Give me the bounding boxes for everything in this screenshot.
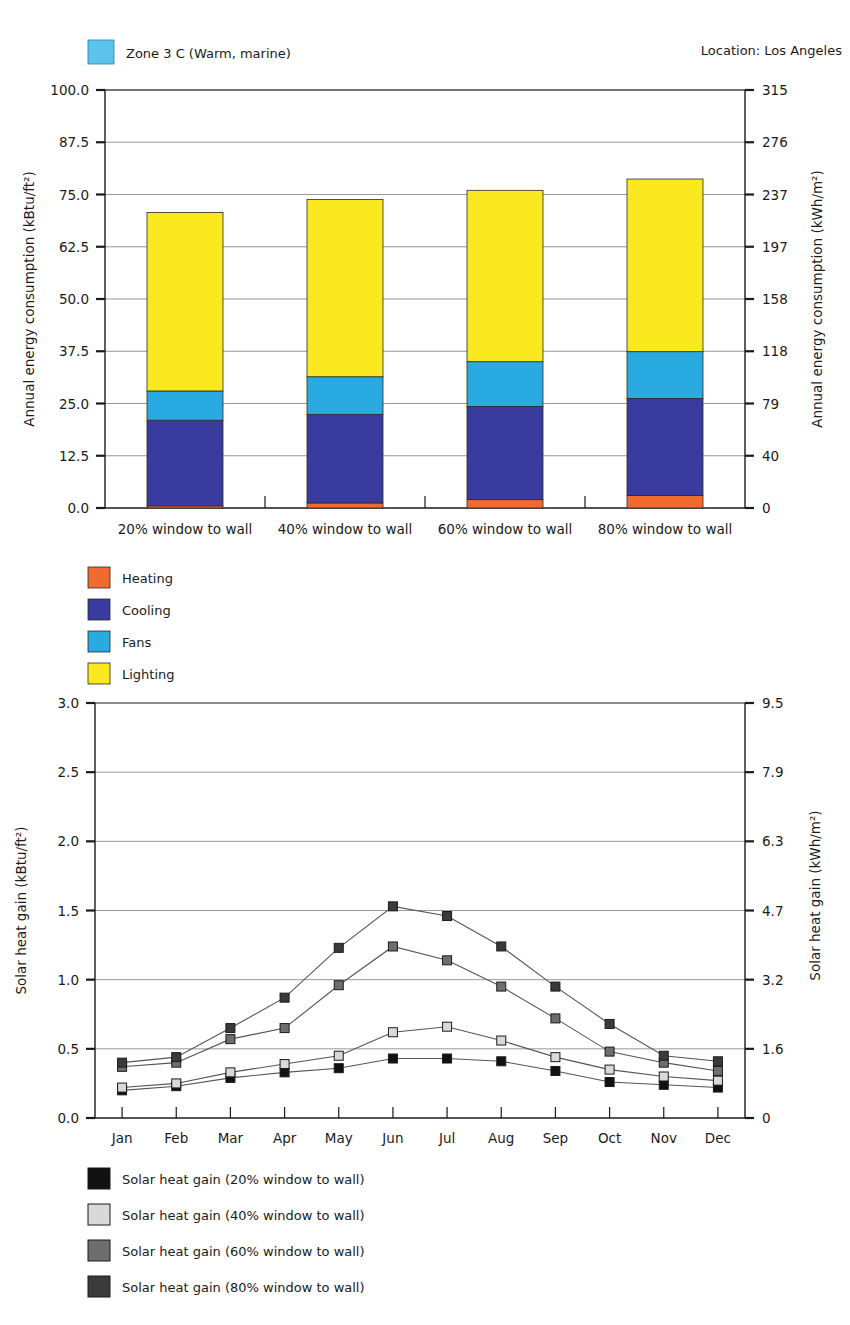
y-tick-label-left: 37.5 [59, 343, 89, 359]
series-marker [388, 942, 397, 951]
y-tick-label-left: 100.0 [50, 82, 89, 98]
series-marker [605, 1047, 614, 1056]
legend-label-series-3: Solar heat gain (60% window to wall) [122, 1244, 365, 1259]
series-marker [280, 993, 289, 1002]
y-tick-label-right: 7.9 [762, 764, 783, 780]
series-marker [118, 1058, 127, 1067]
x-month-label: Mar [218, 1130, 244, 1146]
x-month-label: May [325, 1130, 353, 1146]
bar-segment-cooling [467, 406, 543, 499]
legend-swatch-series-1 [88, 1168, 110, 1189]
y-axis-title-right: Solar heat gain (kWh/m²) [807, 810, 823, 980]
bar-segment-heating [467, 500, 543, 508]
bar-segment-cooling [307, 414, 383, 503]
legend-label-series-1: Solar heat gain (20% window to wall) [122, 1172, 365, 1187]
y-tick-label-left: 0.0 [58, 1110, 79, 1126]
series-marker [172, 1079, 181, 1088]
series-marker [659, 1072, 668, 1081]
legend-swatch-series-4 [88, 1276, 110, 1297]
y-tick-label-right: 0 [762, 500, 771, 516]
y-tick-label-left: 25.0 [59, 396, 89, 412]
y-tick-label-right: 3.2 [762, 972, 783, 988]
legend-label-series-2: Solar heat gain (40% window to wall) [122, 1208, 365, 1223]
series-marker [551, 1014, 560, 1023]
series-marker [551, 1066, 560, 1075]
series-line [122, 946, 718, 1071]
series-marker [172, 1053, 181, 1062]
x-month-label: Dec [705, 1130, 731, 1146]
series-marker [280, 1068, 289, 1077]
y-tick-label-left: 87.5 [59, 134, 89, 150]
y-tick-label-right: 197 [762, 239, 788, 255]
series-marker [497, 982, 506, 991]
series-marker [388, 1054, 397, 1063]
series-marker [497, 1057, 506, 1066]
y-tick-label-right: 158 [762, 291, 788, 307]
bar-segment-fans [467, 362, 543, 407]
bar-segment-fans [307, 377, 383, 415]
energy-legend: HeatingCoolingFansLighting [88, 567, 175, 684]
y-tick-label-left: 12.5 [59, 448, 89, 464]
legend-label-lighting: Lighting [122, 667, 175, 682]
x-category-label: 60% window to wall [438, 521, 572, 537]
x-month-label: Feb [164, 1130, 188, 1146]
series-marker [226, 1035, 235, 1044]
y-tick-label-left: 2.5 [58, 764, 79, 780]
energy-chart: 0.012.525.037.550.062.575.087.5100.00407… [21, 82, 825, 537]
chart-header: Zone 3 C (Warm, marine)Location: Los Ang… [88, 40, 842, 64]
series-marker [388, 902, 397, 911]
y-tick-label-right: 276 [762, 134, 788, 150]
x-month-label: Oct [598, 1130, 621, 1146]
x-month-label: Nov [651, 1130, 677, 1146]
y-tick-label-left: 1.0 [58, 972, 79, 988]
series-line [122, 906, 718, 1062]
bar-segment-heating [627, 495, 703, 508]
legend-swatch-lighting [88, 663, 110, 684]
solar-chart: 0.000.51.61.03.21.54.72.06.32.57.93.09.5… [13, 695, 823, 1146]
series-line [122, 1059, 718, 1091]
series-marker [713, 1076, 722, 1085]
bar-segment-cooling [627, 398, 703, 495]
series-marker [226, 1068, 235, 1077]
bar-segment-lighting [147, 212, 223, 390]
legend-label-cooling: Cooling [122, 603, 171, 618]
legend-label-fans: Fans [122, 635, 151, 650]
y-axis-title-right: Annual energy consumption (kWh/m²) [809, 170, 825, 428]
zone-swatch [88, 40, 114, 64]
legend-swatch-series-3 [88, 1240, 110, 1261]
legend-label-series-4: Solar heat gain (80% window to wall) [122, 1280, 365, 1295]
figure-canvas: Zone 3 C (Warm, marine)Location: Los Ang… [0, 0, 850, 1325]
series-marker [226, 1024, 235, 1033]
series-marker [388, 1028, 397, 1037]
bar-segment-cooling [147, 420, 223, 506]
y-tick-label-right: 118 [762, 343, 788, 359]
y-tick-label-left: 75.0 [59, 187, 89, 203]
y-axis-title-left: Annual energy consumption (kBtu/ft²) [21, 171, 37, 426]
series-marker [443, 912, 452, 921]
series-marker [334, 1064, 343, 1073]
location-label: Location: Los Angeles [701, 43, 842, 58]
bar-segment-lighting [627, 179, 703, 352]
solar-legend: Solar heat gain (20% window to wall)Sola… [88, 1168, 365, 1297]
series-marker [551, 982, 560, 991]
series-marker [280, 1060, 289, 1069]
y-tick-label-left: 62.5 [59, 239, 89, 255]
bar-segment-lighting [307, 200, 383, 377]
y-tick-label-right: 79 [762, 396, 779, 412]
y-tick-label-right: 237 [762, 187, 788, 203]
series-marker [497, 942, 506, 951]
x-month-label: Jan [111, 1130, 133, 1146]
series-marker [497, 1036, 506, 1045]
series-marker [659, 1080, 668, 1089]
x-category-label: 80% window to wall [598, 521, 732, 537]
legend-swatch-cooling [88, 599, 110, 620]
series-marker [713, 1057, 722, 1066]
series-marker [443, 956, 452, 965]
x-month-label: Jul [438, 1130, 455, 1146]
series-marker [605, 1065, 614, 1074]
series-marker [443, 1022, 452, 1031]
y-axis-title-left: Solar heat gain (kBtu/ft²) [13, 826, 29, 994]
series-marker [280, 1024, 289, 1033]
series-marker [443, 1054, 452, 1063]
y-tick-label-left: 1.5 [58, 903, 79, 919]
